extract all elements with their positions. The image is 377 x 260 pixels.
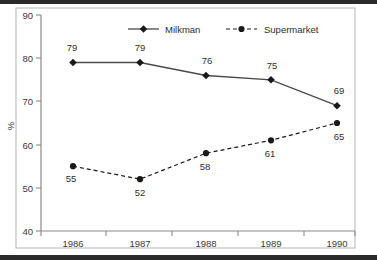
x-tick-label-1990: 1990 [326,238,347,249]
y-tick-label-80: 80 [22,53,33,64]
y-tick-label-90: 90 [22,10,33,21]
data-point-milkman-1987 [136,59,144,67]
data-label-supermarket-1986: 55 [66,173,77,184]
data-label-milkman-1990: 69 [334,85,345,96]
data-point-supermarket-1988 [203,150,209,156]
data-label-supermarket-1988: 58 [200,161,211,172]
x-tick-label-1987: 1987 [129,238,150,249]
data-label-milkman-1988: 76 [202,55,213,66]
x-tick-label-1986: 1986 [62,238,83,249]
x-tick-label-1988: 1988 [195,238,216,249]
data-point-supermarket-1989 [268,137,274,143]
data-label-milkman-1989: 75 [267,60,278,71]
legend-label-supermarket: Supermarket [264,24,319,35]
series-line-milkman [73,63,337,106]
legend-marker-milkman [140,25,148,33]
data-label-milkman-1987: 79 [135,42,146,53]
data-label-supermarket-1990: 65 [334,131,345,142]
data-label-supermarket-1989: 61 [265,148,276,159]
legend-label-milkman: Milkman [165,24,200,35]
y-tick-label-70: 70 [22,96,33,107]
data-point-milkman-1990 [333,102,341,110]
data-point-supermarket-1990 [334,120,340,126]
chart-legend: Milkman Supermarket [128,24,319,35]
line-chart: 90 80 70 60 50 40 % 1986 1987 1988 1989 … [0,0,377,260]
data-point-supermarket-1986 [70,163,76,169]
x-tick-label-1989: 1989 [260,238,281,249]
data-label-supermarket-1987: 52 [135,187,146,198]
y-tick-label-60: 60 [22,140,33,151]
data-point-milkman-1989 [267,76,275,84]
y-tick-label-50: 50 [22,183,33,194]
y-axis-title: % [5,121,16,130]
chart-figure: 90 80 70 60 50 40 % 1986 1987 1988 1989 … [0,0,377,260]
legend-marker-supermarket [238,26,244,32]
y-tick-label-40: 40 [22,226,33,237]
data-point-milkman-1988 [202,72,210,80]
data-point-supermarket-1987 [137,176,143,182]
data-label-milkman-1986: 79 [67,42,78,53]
data-point-milkman-1986 [69,59,77,67]
